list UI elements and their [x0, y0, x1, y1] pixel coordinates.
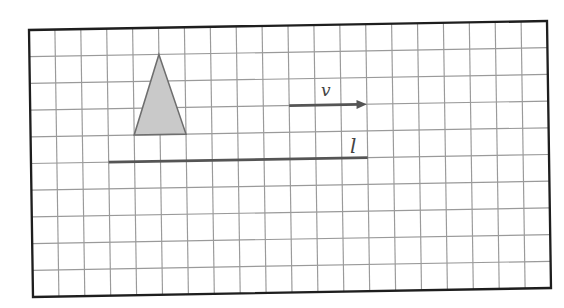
grid-figure: v l: [0, 0, 564, 308]
vector-label-v: v: [321, 80, 331, 100]
arrowhead-icon: [356, 100, 366, 109]
triangle-shape: [133, 54, 186, 135]
line-label-l: l: [350, 134, 356, 158]
vector-v-arrow: [289, 104, 359, 105]
